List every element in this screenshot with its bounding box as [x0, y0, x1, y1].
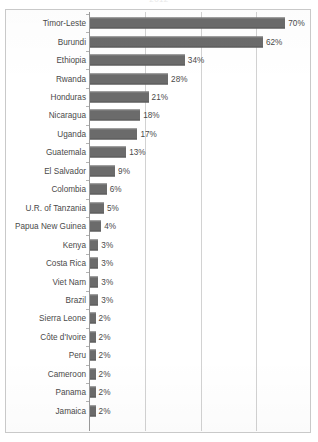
bar-row: Colombia6%: [6, 180, 311, 198]
axis-tick: [86, 180, 89, 181]
chart-frame: Timor-Leste70%Burundi62%Ethiopia34%Rwand…: [5, 9, 311, 433]
bar-row: Burundi62%: [6, 32, 311, 50]
bar-row: Sierra Leone2%: [6, 309, 311, 327]
bar: [90, 92, 149, 103]
axis-tick: [86, 69, 89, 70]
bar: [90, 36, 263, 47]
bar-row: Nicaragua18%: [6, 106, 311, 124]
category-label: Timor-Leste: [43, 19, 86, 28]
bar-value-label: 4%: [104, 222, 116, 231]
category-label: Viet Nam: [52, 277, 86, 286]
category-label: Peru: [69, 351, 86, 360]
axis-tick: [86, 346, 89, 347]
axis-tick: [86, 383, 89, 384]
category-label: Panama: [56, 388, 87, 397]
bar-value-label: 28%: [171, 74, 187, 83]
bar: [90, 276, 98, 287]
bar-row: Honduras21%: [6, 88, 311, 106]
bar-value-label: 5%: [107, 203, 119, 212]
axis-tick: [86, 51, 89, 52]
axis-tick: [86, 235, 89, 236]
bar-value-label: 70%: [288, 19, 304, 28]
bar-row: Kenya3%: [6, 235, 311, 253]
bar-value-label: 62%: [266, 37, 282, 46]
axis-tick: [86, 272, 89, 273]
plot-area: Timor-Leste70%Burundi62%Ethiopia34%Rwand…: [6, 10, 311, 433]
bar: [90, 128, 137, 139]
category-label: Nicaragua: [49, 111, 86, 120]
bar-row: Costa Rica3%: [6, 254, 311, 272]
bar: [90, 405, 96, 416]
axis-tick: [86, 365, 89, 366]
bar-row: Guatemala13%: [6, 143, 311, 161]
bar: [90, 331, 96, 342]
axis-tick: [86, 32, 89, 33]
category-label: Papua New Guinea: [15, 222, 86, 231]
bar: [90, 18, 285, 29]
bar-row: El Salvador9%: [6, 162, 311, 180]
bar: [90, 258, 98, 269]
axis-tick: [86, 106, 89, 107]
bar-value-label: 2%: [99, 406, 111, 415]
axis-tick: [86, 162, 89, 163]
bar: [90, 387, 96, 398]
category-label: Brazil: [66, 295, 86, 304]
category-label: Uganda: [57, 129, 86, 138]
axis-tick: [86, 291, 89, 292]
category-label: Cameroon: [48, 369, 86, 378]
bar: [90, 313, 96, 324]
bar-row: Cameroon2%: [6, 365, 311, 383]
bar-value-label: 17%: [140, 129, 156, 138]
category-label: Ethiopia: [56, 56, 86, 65]
category-label: Rwanda: [56, 74, 86, 83]
bar-row: U.R. of Tanzania5%: [6, 199, 311, 217]
category-label: Kenya: [63, 240, 86, 249]
axis-tick: [86, 199, 89, 200]
bar: [90, 202, 104, 213]
bar: [90, 147, 126, 158]
bar-value-label: 2%: [99, 369, 111, 378]
bar-value-label: 34%: [188, 56, 204, 65]
axis-tick: [86, 309, 89, 310]
bar-value-label: 21%: [152, 93, 168, 102]
bar-row: Timor-Leste70%: [6, 14, 311, 32]
category-label: El Salvador: [44, 166, 86, 175]
bar-value-label: 9%: [118, 166, 130, 175]
bar-value-label: 3%: [101, 259, 113, 268]
bar: [90, 294, 98, 305]
axis-tick: [86, 125, 89, 126]
category-label: Colombia: [51, 185, 86, 194]
category-label: Sierra Leone: [39, 314, 86, 323]
bar-row: Brazil3%: [6, 291, 311, 309]
category-label: Côte d'Ivoire: [40, 332, 86, 341]
axis-tick: [86, 217, 89, 218]
bar-row: Rwanda28%: [6, 69, 311, 87]
axis-tick: [86, 143, 89, 144]
category-label: Guatemala: [46, 148, 86, 157]
bar-row: Panama2%: [6, 383, 311, 401]
bar-row: Ethiopia34%: [6, 51, 311, 69]
category-label: Costa Rica: [46, 259, 86, 268]
bar-rows: Timor-Leste70%Burundi62%Ethiopia34%Rwand…: [6, 10, 311, 433]
bar: [90, 350, 96, 361]
bar: [90, 165, 115, 176]
axis-tick: [86, 254, 89, 255]
bar-row: Uganda17%: [6, 125, 311, 143]
bar-value-label: 6%: [110, 185, 122, 194]
bar: [90, 184, 107, 195]
bar: [90, 239, 98, 250]
bar-value-label: 18%: [143, 111, 159, 120]
axis-tick: [86, 14, 89, 15]
bar-value-label: 3%: [101, 277, 113, 286]
bar-value-label: 2%: [99, 388, 111, 397]
bar-value-label: 13%: [129, 148, 145, 157]
clipped-title-text: 2012: [0, 0, 318, 7]
bar: [90, 221, 101, 232]
bar-row: Viet Nam3%: [6, 272, 311, 290]
bar-value-label: 2%: [99, 314, 111, 323]
bar-value-label: 2%: [99, 332, 111, 341]
bar: [90, 110, 140, 121]
axis-tick: [86, 328, 89, 329]
category-label: Jamaica: [56, 406, 87, 415]
category-label: Honduras: [50, 93, 86, 102]
